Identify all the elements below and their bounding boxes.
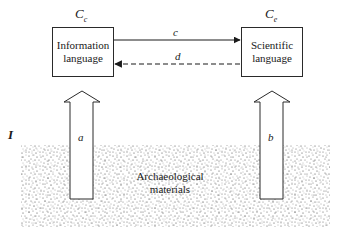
archaeological-materials-label: Archaeological materials: [130, 170, 210, 196]
edge-label-b: b: [268, 131, 274, 143]
level-label-i: I: [8, 127, 13, 143]
materials-line1: Archaeological: [130, 170, 210, 183]
label-c-c: Cc: [75, 6, 87, 24]
edge-label-a: a: [78, 131, 84, 143]
edge-label-d: d: [175, 50, 181, 62]
label-c-e: Ce: [265, 6, 277, 24]
information-language-line1: Information: [57, 39, 110, 52]
edge-label-c: c: [173, 26, 178, 38]
information-language-box: Information language: [52, 27, 114, 77]
information-language-line2: language: [57, 52, 110, 65]
materials-line2: materials: [130, 183, 210, 196]
scientific-language-line1: Scientific: [251, 39, 293, 52]
scientific-language-box: Scientific language: [241, 27, 303, 77]
scientific-language-line2: language: [251, 52, 293, 65]
